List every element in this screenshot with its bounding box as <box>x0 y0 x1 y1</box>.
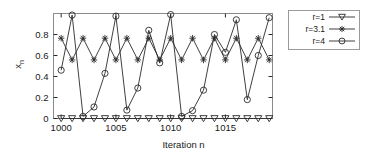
plot-frame <box>54 14 273 119</box>
legend-entry-r31: r=3.1 <box>289 23 359 35</box>
axis-ticks <box>54 14 273 119</box>
legend-label: r=1 <box>312 12 325 22</box>
legend-label: r=3.1 <box>305 24 325 34</box>
x-tick-label: 1000 <box>51 122 72 133</box>
x-axis-label: Iteration n <box>0 139 367 150</box>
legend-entry-r4: r=4 <box>289 35 359 47</box>
y-tick-label: 0 <box>43 113 48 124</box>
legend-marker-asterisk-icon <box>328 23 356 35</box>
y-axis-label: xn <box>12 60 25 69</box>
legend-marker-circle-icon <box>328 35 356 47</box>
series-markers <box>58 11 272 119</box>
x-tick-label: 1015 <box>215 122 236 133</box>
legend-marker-triangle-down-icon <box>328 11 356 23</box>
legend-entry-r1: r=1 <box>289 11 359 23</box>
series-line <box>61 15 269 117</box>
series-line <box>61 38 269 60</box>
y-tick-label: 0.8 <box>35 29 48 40</box>
legend-label: r=4 <box>312 36 325 46</box>
chart-figure: 00.20.40.60.81000100510101015 xn Iterati… <box>0 0 367 152</box>
x-tick-label: 1010 <box>160 122 181 133</box>
series-r4 <box>58 11 272 119</box>
y-tick-label: 0.6 <box>35 50 48 61</box>
y-tick-label: 0.4 <box>35 71 48 82</box>
y-tick-label: 0.2 <box>35 92 48 103</box>
legend: r=1r=3.1r=4 <box>288 10 360 50</box>
x-tick-label: 1005 <box>105 122 126 133</box>
